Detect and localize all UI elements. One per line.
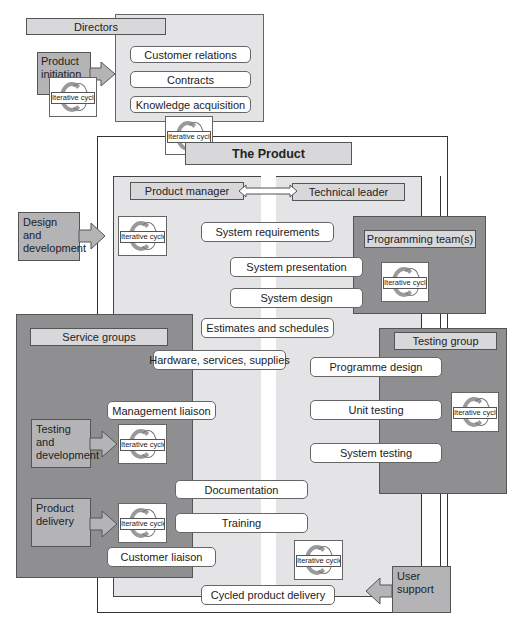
testing-development-input: Testing and development (31, 419, 91, 468)
hardware-services-supplies-box: Hardware, services, supplies (153, 350, 286, 370)
arrow-right-icon (90, 511, 118, 537)
contracts-box: Contracts (130, 71, 251, 88)
testing-group-label: Testing group (394, 332, 497, 350)
iterative-cycle-icon: Iterative cycle (451, 392, 499, 432)
system-requirements-box: System requirements (201, 222, 334, 242)
product-manager-label: Product manager (130, 182, 244, 200)
system-presentation-box: System presentation (230, 257, 363, 277)
training-box: Training (175, 513, 308, 533)
customer-relations-box: Customer relations (130, 46, 251, 63)
user-support-input: User support (392, 566, 451, 613)
cycled-product-delivery-box: Cycled product delivery (201, 585, 335, 605)
product-title: The Product (185, 142, 352, 165)
arrow-right-icon (90, 431, 118, 457)
double-arrow-icon (239, 184, 297, 198)
iterative-cycle-icon: Iterative cycle (118, 424, 167, 464)
arrow-left-icon (366, 578, 393, 604)
unit-testing-box: Unit testing (310, 400, 442, 420)
system-design-box: System design (230, 288, 363, 308)
technical-leader-label: Technical leader (292, 183, 405, 201)
management-liaison-box: Management liaison (107, 401, 216, 420)
iterative-cycle-icon: Iterative cycle (294, 540, 343, 580)
design-development-input: Design and development (18, 212, 80, 261)
customer-liaison-box: Customer liaison (107, 547, 216, 567)
iterative-cycle-icon: Iterative cycle (381, 262, 429, 302)
arrow-right-icon (79, 223, 106, 249)
service-groups-label: Service groups (30, 328, 168, 346)
iterative-cycle-icon: Iterative cycle (118, 216, 167, 256)
iterative-cycle-icon: Iterative cycle (49, 77, 97, 117)
knowledge-acquisition-box: Knowledge acquisition (130, 96, 251, 113)
documentation-box: Documentation (175, 480, 308, 499)
programming-team-label: Programming team(s) (364, 230, 476, 248)
estimates-schedules-box: Estimates and schedules (201, 318, 334, 338)
iterative-cycle-icon: Iterative cycle (118, 503, 167, 543)
directors-label: Directors (26, 18, 166, 35)
system-testing-box: System testing (310, 443, 442, 463)
product-delivery-input: Product delivery (31, 498, 91, 547)
programme-design-box: Programme design (310, 357, 442, 377)
